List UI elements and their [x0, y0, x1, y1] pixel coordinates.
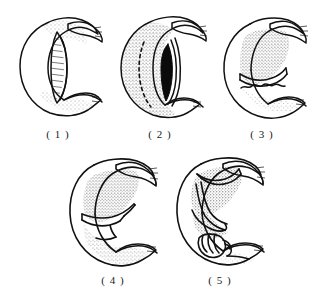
figure-1-shading-upper — [36, 14, 96, 54]
figure-4-shading-lower — [78, 218, 150, 268]
figure-2-caption: ( 2 ) — [108, 128, 212, 140]
figure-2-shading-body — [118, 18, 188, 118]
figure-4-shading-upper — [78, 164, 142, 226]
figure-panel-1: ( 1 ) — [6, 8, 110, 148]
figure-panel-4: ( 4 ) — [58, 152, 168, 297]
figure-5-shading-lower — [201, 238, 261, 268]
figure-3-caption: ( 3 ) — [210, 128, 314, 140]
figure-panel-2: ( 2 ) — [108, 8, 212, 148]
figure-1-caption: ( 1 ) — [6, 128, 110, 140]
figure-panel-3: ( 3 ) — [210, 8, 314, 148]
figure-5-shading-upper — [187, 162, 247, 220]
figure-2-illustration — [108, 8, 212, 128]
figure-5-illustration — [165, 152, 275, 274]
figure-1-illustration — [6, 8, 110, 128]
figure-1-shading-lower — [36, 88, 101, 118]
figure-4-illustration — [58, 152, 168, 274]
figure-panel-5: ( 5 ) — [165, 152, 275, 297]
figure-5-caption: ( 5 ) — [165, 274, 275, 286]
figure-plate: ( 1 ) — [0, 0, 315, 299]
figure-3-illustration — [210, 8, 314, 128]
figure-4-caption: ( 4 ) — [58, 274, 168, 286]
